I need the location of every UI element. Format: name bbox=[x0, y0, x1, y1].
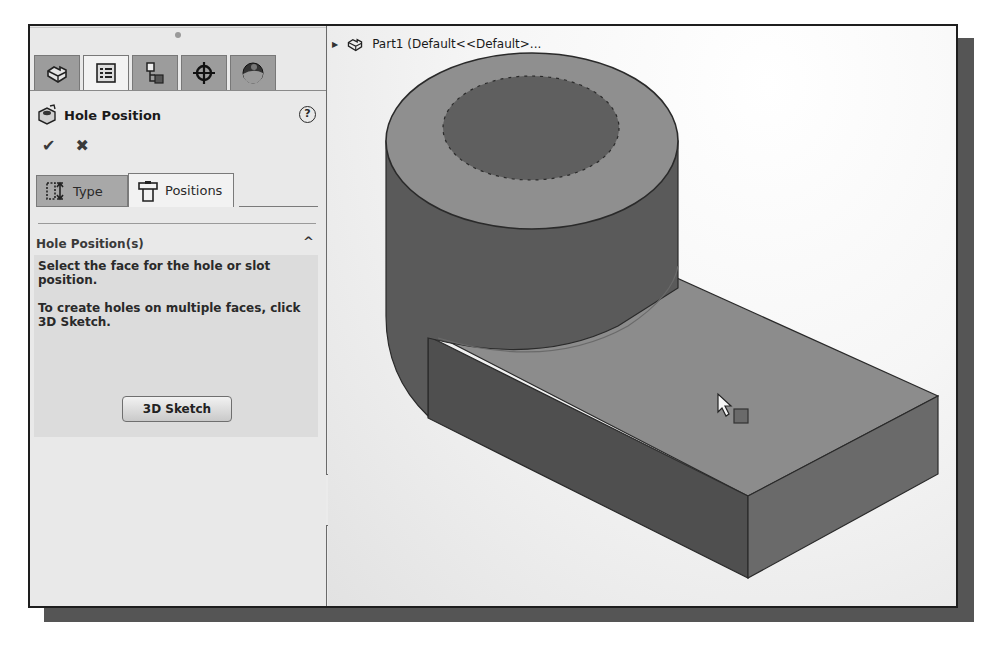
hole-position-icon bbox=[137, 180, 159, 202]
featuremanager-flyout[interactable]: ▶ Part1 (Default<<Default>... bbox=[332, 36, 541, 52]
appearance-sphere-icon bbox=[241, 61, 265, 85]
graphics-area[interactable]: ▶ Part1 (Default<<Default>... bbox=[328, 26, 956, 606]
subtabs-divider bbox=[239, 206, 318, 207]
property-manager-header: Hole Position ? bbox=[36, 102, 316, 128]
tabs-divider bbox=[30, 90, 326, 91]
group-title: Hole Position(s) bbox=[36, 237, 144, 251]
cancel-x-icon[interactable]: ✖ bbox=[75, 136, 88, 155]
page-title: Hole Position bbox=[64, 108, 161, 123]
panel-top-divider bbox=[30, 27, 326, 28]
tab-type-label: Type bbox=[73, 184, 103, 199]
solidworks-window: Hole Position ? ✔ ✖ Type Positio bbox=[28, 24, 958, 608]
ok-cancel-bar: ✔ ✖ bbox=[42, 136, 89, 155]
mouse-pointer-face-icon bbox=[716, 392, 752, 426]
part-icon bbox=[346, 36, 364, 52]
property-manager-panel: Hole Position ? ✔ ✖ Type Positio bbox=[30, 26, 327, 606]
configuration-icon bbox=[144, 61, 166, 85]
tab-dimxpertmanager[interactable] bbox=[181, 55, 227, 91]
panel-resize-grip[interactable] bbox=[175, 32, 181, 38]
tab-type[interactable]: Type bbox=[36, 175, 128, 207]
chevron-up-icon[interactable]: ^ bbox=[303, 234, 314, 249]
part-name-label: Part1 (Default<<Default>... bbox=[372, 37, 541, 51]
help-icon[interactable]: ? bbox=[299, 106, 316, 123]
crosshair-icon bbox=[192, 61, 216, 85]
multiple-faces-hint: To create holes on multiple faces, click… bbox=[38, 301, 314, 329]
instruction-text: Select the face for the hole or slot pos… bbox=[38, 259, 314, 287]
tab-configurationmanager[interactable] bbox=[132, 55, 178, 91]
hole-positions-group-header[interactable]: Hole Position(s) ^ bbox=[36, 234, 316, 254]
property-list-icon bbox=[95, 62, 117, 84]
expand-arrow-icon[interactable]: ▶ bbox=[332, 40, 338, 49]
tab-displaymanager[interactable] bbox=[230, 55, 276, 91]
hole-positions-group-body: Select the face for the hole or slot pos… bbox=[34, 255, 318, 437]
tab-positions[interactable]: Positions bbox=[128, 173, 234, 207]
ok-checkmark-icon[interactable]: ✔ bbox=[42, 136, 55, 155]
tab-propertymanager[interactable] bbox=[83, 55, 129, 91]
hole-wizard-tabs: Type Positions bbox=[36, 173, 234, 207]
tab-featuremanager[interactable] bbox=[34, 55, 80, 91]
3d-sketch-button[interactable]: 3D Sketch bbox=[122, 396, 232, 422]
part-icon bbox=[45, 62, 69, 84]
hole-type-icon bbox=[45, 181, 67, 201]
hole-wizard-icon bbox=[36, 104, 58, 126]
3d-part-model[interactable] bbox=[328, 26, 956, 606]
section-divider bbox=[38, 223, 316, 224]
manager-tabs bbox=[34, 55, 279, 91]
tab-positions-label: Positions bbox=[165, 183, 222, 198]
